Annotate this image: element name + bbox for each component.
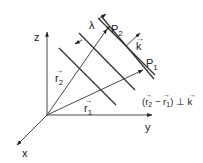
svg-text:→: → [189, 91, 196, 98]
label-p1: P1 [146, 57, 158, 72]
label-r2: r2 → [55, 66, 64, 87]
label-r1: r1 → [84, 96, 93, 117]
relation-label: (r2 − r1) ⊥ k → → → [142, 91, 196, 108]
label-k: k → [136, 34, 144, 52]
svg-text:P1: P1 [146, 57, 158, 72]
wavelength-arrow-left [75, 40, 82, 44]
axis-label-y: y [145, 121, 151, 133]
wavefront-line [101, 16, 154, 79]
axis-label-x: x [22, 147, 28, 159]
svg-text:→: → [84, 96, 92, 105]
svg-text:→: → [145, 91, 152, 98]
vector-r1 [47, 70, 143, 115]
x-axis [17, 115, 47, 145]
svg-text:→: → [163, 91, 170, 98]
wave-diagram: z y x λ P2 P1 k → r2 → r1 → (r2 − r1) ⊥ … [0, 0, 203, 163]
wavelength-label: λ [89, 19, 95, 31]
svg-text:→: → [136, 34, 144, 43]
svg-text:→: → [55, 66, 63, 75]
wavefront-line [79, 33, 135, 90]
point-p2 [107, 27, 110, 30]
axis-label-z: z [34, 31, 40, 43]
